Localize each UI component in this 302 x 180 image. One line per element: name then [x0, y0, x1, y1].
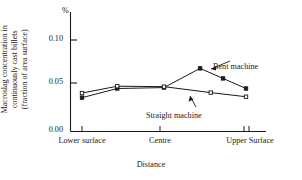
data-point-marker: [221, 77, 224, 80]
data-point-marker: [80, 91, 83, 94]
data-point-marker: [198, 67, 201, 70]
plot-area: [0, 0, 302, 180]
series-line-bent-machine: [82, 68, 246, 97]
chart-figure: Macroslag concentration in continuously …: [0, 0, 302, 180]
data-point-marker: [162, 85, 165, 88]
data-point-marker: [209, 91, 212, 94]
data-point-marker: [244, 95, 247, 98]
axes: [71, 12, 267, 132]
data-point-marker: [244, 87, 247, 90]
annotation-leaders: [189, 61, 230, 107]
data-point-marker: [116, 85, 119, 88]
data-point-marker: [80, 96, 83, 99]
